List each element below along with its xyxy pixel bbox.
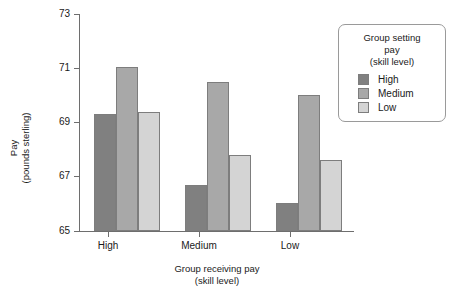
y-tick-label-67: 67 xyxy=(44,171,70,181)
x-axis-title-line1: Group receiving pay xyxy=(80,263,354,275)
bar-medium-low xyxy=(229,155,251,231)
y-tick-label-69: 69 xyxy=(44,117,70,127)
legend-title: Group setting pay (skill level) xyxy=(345,32,439,68)
legend-swatch-low xyxy=(358,102,369,113)
legend-title-line1: Group setting xyxy=(345,32,439,44)
x-tick-label-medium: Medium xyxy=(154,240,244,251)
bar-low-medium xyxy=(298,95,320,231)
x-tick-mark-high xyxy=(108,232,109,237)
x-tick-mark-low xyxy=(290,232,291,237)
legend-label-medium: Medium xyxy=(378,88,414,99)
bar-low-high xyxy=(276,203,298,231)
legend-title-line2: pay xyxy=(345,44,439,56)
legend-item-list: HighMediumLow xyxy=(345,74,439,113)
legend-swatch-medium xyxy=(358,88,369,99)
legend-item-high[interactable]: High xyxy=(358,74,439,85)
bar-chart: Pay (pounds sterling) 73 71 69 67 65 Hig… xyxy=(0,0,453,297)
y-tick-label-73: 73 xyxy=(44,9,70,19)
bar-low-low xyxy=(320,160,342,231)
x-axis-line xyxy=(79,231,354,232)
x-axis-title-line2: (skill level) xyxy=(80,275,354,287)
x-tick-mark-medium xyxy=(199,232,200,237)
y-axis-title-line2: (pounds sterling) xyxy=(20,113,32,184)
bar-high-low xyxy=(138,112,160,231)
y-axis-title: Pay (pounds sterling) xyxy=(2,88,38,208)
legend: Group setting pay (skill level) HighMedi… xyxy=(338,24,446,122)
plot-area xyxy=(80,14,354,231)
bar-medium-medium xyxy=(207,82,229,231)
bar-high-medium xyxy=(116,67,138,231)
y-axis-title-line1: Pay xyxy=(8,113,20,184)
y-tick-label-65: 65 xyxy=(44,226,70,236)
x-tick-label-high: High xyxy=(63,240,153,251)
legend-label-high: High xyxy=(378,74,399,85)
legend-title-line3: (skill level) xyxy=(345,56,439,68)
legend-item-low[interactable]: Low xyxy=(358,102,439,113)
legend-item-medium[interactable]: Medium xyxy=(358,88,439,99)
y-tick-label-71: 71 xyxy=(44,63,70,73)
legend-label-low: Low xyxy=(378,102,396,113)
x-tick-label-low: Low xyxy=(245,240,335,251)
bar-high-high xyxy=(94,114,116,231)
legend-swatch-high xyxy=(358,74,369,85)
bar-medium-high xyxy=(185,185,207,231)
x-axis-title: Group receiving pay (skill level) xyxy=(80,263,354,287)
